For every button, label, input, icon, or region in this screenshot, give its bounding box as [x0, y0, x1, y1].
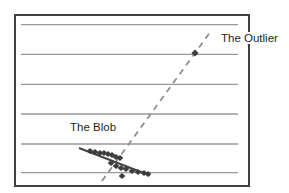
scatter-plot-canvas	[0, 0, 289, 193]
blob-label: The Blob	[69, 121, 117, 133]
blob-point	[119, 173, 126, 179]
outlier-label: The Outlier	[220, 32, 279, 44]
scatter-outlier-figure: The Blob The Outlier	[0, 0, 289, 193]
plot-frame	[15, 15, 249, 186]
